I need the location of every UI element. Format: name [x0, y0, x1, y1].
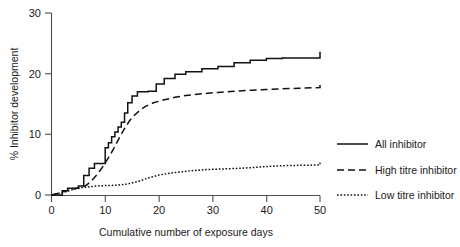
legend-label-all-inhibitor: All inhibitor: [375, 138, 427, 150]
x-tick-label-10: 10: [99, 204, 111, 216]
x-tick-label-40: 40: [261, 204, 273, 216]
chart-figure: 30 20 10 0 0 10 20 30 40 50 Cumulative n…: [0, 0, 460, 247]
x-tick-label-30: 30: [207, 204, 219, 216]
inhibitor-development-line-chart: 30 20 10 0 0 10 20 30 40 50 Cumulative n…: [0, 0, 460, 247]
x-tick-label-0: 0: [48, 204, 54, 216]
y-tick-label-30: 30: [29, 7, 41, 19]
legend-label-high-titre-inhibitor: High titre inhibitor: [375, 164, 457, 176]
y-tick-label-20: 20: [29, 68, 41, 80]
x-axis-ticks: [52, 196, 321, 203]
y-tick-label-0: 0: [35, 189, 41, 201]
series-line-all-inhibitor: [52, 52, 321, 195]
legend-label-low-titre-inhibitor: Low titre inhibitor: [375, 189, 455, 201]
x-axis-title: Cumulative number of exposure days: [99, 226, 273, 238]
series-line-high-titre-inhibitor: [52, 82, 321, 195]
y-axis-title: % Inhibitor development: [8, 48, 20, 161]
y-tick-label-10: 10: [29, 128, 41, 140]
chart-legend: All inhibitor High titre inhibitor Low t…: [337, 138, 457, 201]
x-tick-label-20: 20: [153, 204, 165, 216]
x-tick-label-50: 50: [314, 204, 326, 216]
y-axis-ticks: [45, 13, 52, 195]
